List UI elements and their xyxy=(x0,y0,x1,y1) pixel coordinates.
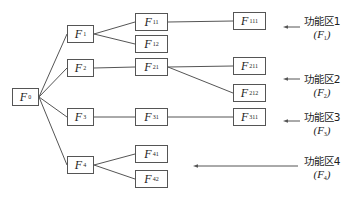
node-f4: F4 xyxy=(67,156,94,174)
node-label: F xyxy=(75,27,82,42)
node-label: F xyxy=(241,86,248,101)
node-f12: F12 xyxy=(135,35,168,53)
arrow-left-icon xyxy=(193,164,298,168)
node-f11: F11 xyxy=(135,13,168,31)
zone-symbol-sub: 3 xyxy=(324,131,327,137)
zone-name: 功能区1 xyxy=(296,15,346,28)
zone-symbol-sub: 2 xyxy=(324,93,327,99)
node-subscript: 4 xyxy=(83,162,86,168)
node-label: F xyxy=(241,110,248,125)
node-label: F xyxy=(144,15,151,30)
node-subscript: 11 xyxy=(153,19,159,25)
node-subscript: 12 xyxy=(153,41,159,47)
node-f211: F211 xyxy=(233,57,266,75)
node-subscript: 41 xyxy=(153,151,159,157)
node-f31: F31 xyxy=(135,108,168,126)
node-label: F xyxy=(144,110,151,125)
zone-label-2: 功能区2(F2) xyxy=(296,73,346,103)
node-f21: F21 xyxy=(135,58,168,76)
zone-name: 功能区3 xyxy=(296,111,346,124)
node-subscript: 0 xyxy=(28,94,31,100)
node-f0: F0 xyxy=(12,88,39,106)
zone-label-1: 功能区1(F1) xyxy=(296,15,346,45)
node-label: F xyxy=(144,172,151,187)
zone-name: 功能区2 xyxy=(296,73,346,86)
node-label: F xyxy=(144,60,151,75)
node-subscript: 42 xyxy=(153,176,159,182)
edge-layer xyxy=(0,0,346,198)
edge-f0-f2 xyxy=(39,68,67,97)
zone-symbol: (F2) xyxy=(296,86,346,103)
edge-f21-f212 xyxy=(168,67,233,93)
zone-symbol: (F3) xyxy=(296,124,346,141)
edge-f4-f41 xyxy=(94,154,135,165)
node-f1: F1 xyxy=(67,25,94,43)
node-subscript: 1 xyxy=(83,31,86,37)
node-label: F xyxy=(75,158,82,173)
node-label: F xyxy=(241,14,248,29)
zone-label-3: 功能区3(F3) xyxy=(296,111,346,141)
zone-symbol: (F1) xyxy=(296,28,346,45)
node-label: F xyxy=(144,37,151,52)
zone-symbol-sub: 4 xyxy=(324,175,327,181)
node-f212: F212 xyxy=(233,84,266,102)
function-tree-diagram: F0F1F2F3F4F11F12F21F31F41F42F111F211F212… xyxy=(0,0,346,198)
zone-symbol-base: F xyxy=(317,124,324,136)
node-subscript: 311 xyxy=(249,114,258,120)
zone-name: 功能区4 xyxy=(296,155,346,168)
edge-f1-f11 xyxy=(94,22,135,34)
node-subscript: 3 xyxy=(83,114,86,120)
node-subscript: 21 xyxy=(153,64,159,70)
edge-f1-f12 xyxy=(94,34,135,44)
node-subscript: 211 xyxy=(249,63,258,69)
zone-symbol-base: F xyxy=(317,86,324,98)
edge-f11-f111 xyxy=(168,21,233,22)
node-f311: F311 xyxy=(233,108,266,126)
node-label: F xyxy=(75,110,82,125)
node-f41: F41 xyxy=(135,145,168,163)
zone-label-4: 功能区4(F4) xyxy=(296,155,346,185)
edge-f0-f1 xyxy=(39,34,67,97)
node-label: F xyxy=(241,59,248,74)
edge-f4-f42 xyxy=(94,165,135,179)
node-f42: F42 xyxy=(135,170,168,188)
zone-symbol-base: F xyxy=(317,28,324,40)
edge-f2-f21 xyxy=(94,67,135,68)
zone-symbol: (F4) xyxy=(296,168,346,185)
zone-symbol-sub: 1 xyxy=(324,35,327,41)
node-subscript: 2 xyxy=(83,65,86,71)
node-f3: F3 xyxy=(67,108,94,126)
node-f2: F2 xyxy=(67,59,94,77)
node-subscript: 212 xyxy=(249,90,258,96)
node-label: F xyxy=(20,90,27,105)
node-label: F xyxy=(144,147,151,162)
edge-f21-f211 xyxy=(168,66,233,67)
node-subscript: 111 xyxy=(249,18,258,24)
node-f111: F111 xyxy=(233,12,266,30)
node-subscript: 31 xyxy=(153,114,159,120)
node-label: F xyxy=(75,61,82,76)
zone-symbol-base: F xyxy=(317,168,324,180)
